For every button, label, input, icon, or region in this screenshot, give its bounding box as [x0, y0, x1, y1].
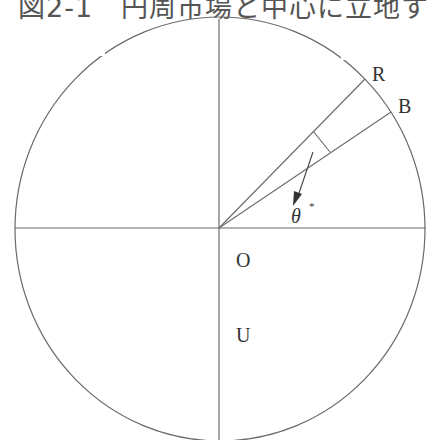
label-theta: θ	[291, 205, 301, 228]
theta-arrow	[298, 152, 313, 196]
label-U: U	[236, 324, 250, 347]
radius-to-B	[219, 112, 391, 228]
label-O: O	[236, 249, 250, 272]
label-theta-mark: *	[309, 200, 315, 212]
label-B: B	[398, 95, 411, 118]
label-R: R	[372, 63, 385, 86]
circle-gap-right	[341, 55, 346, 60]
arrow-head-icon	[293, 191, 302, 206]
arc-connector	[313, 131, 330, 152]
circle-gap-left	[100, 51, 105, 56]
circular-market-diagram	[0, 0, 431, 440]
